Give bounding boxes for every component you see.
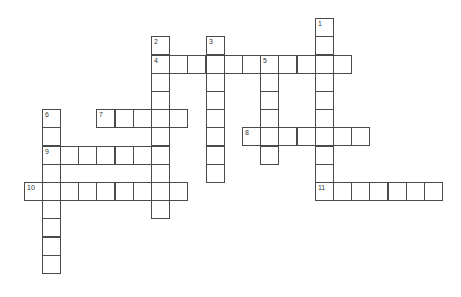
clue-number: 8	[245, 129, 249, 136]
crossword-cell[interactable]: 6	[42, 109, 61, 128]
crossword-cell[interactable]	[297, 127, 316, 146]
clue-number: 3	[209, 38, 213, 45]
clue-number: 7	[99, 111, 103, 118]
crossword-cell[interactable]	[133, 109, 152, 128]
crossword-cell[interactable]	[388, 182, 407, 201]
crossword-cell[interactable]	[242, 55, 261, 74]
crossword-cell[interactable]	[260, 91, 279, 110]
clue-number: 5	[263, 57, 267, 64]
crossword-cell[interactable]: 7	[96, 109, 115, 128]
crossword-cell[interactable]	[60, 146, 79, 165]
crossword-cell[interactable]	[115, 182, 134, 201]
crossword-cell[interactable]	[169, 109, 188, 128]
crossword-cell[interactable]	[133, 146, 152, 165]
crossword-cell[interactable]	[42, 237, 61, 256]
clue-number: 2	[154, 38, 158, 45]
crossword-cell[interactable]	[260, 127, 279, 146]
crossword-cell[interactable]: 10	[24, 182, 43, 201]
crossword-cell[interactable]: 1	[315, 18, 334, 37]
crossword-cell[interactable]	[297, 55, 316, 74]
crossword-cell[interactable]	[315, 55, 334, 74]
crossword-cell[interactable]	[42, 182, 61, 201]
crossword-cell[interactable]	[278, 55, 297, 74]
crossword-cell[interactable]: 4	[151, 55, 170, 74]
crossword-cell[interactable]	[42, 127, 61, 146]
crossword-cell[interactable]	[260, 109, 279, 128]
crossword-cell[interactable]	[278, 127, 297, 146]
crossword-cell[interactable]	[369, 182, 388, 201]
crossword-cell[interactable]	[351, 182, 370, 201]
crossword-cell[interactable]	[206, 164, 225, 183]
crossword-cell[interactable]: 2	[151, 36, 170, 55]
clue-number: 6	[45, 111, 49, 118]
crossword-cell[interactable]	[60, 182, 79, 201]
crossword-cell[interactable]	[151, 127, 170, 146]
crossword-grid: 1112435697810	[0, 0, 461, 297]
crossword-cell[interactable]	[206, 146, 225, 165]
crossword-cell[interactable]	[315, 91, 334, 110]
crossword-cell[interactable]	[115, 109, 134, 128]
crossword-cell[interactable]	[96, 182, 115, 201]
crossword-cell[interactable]	[224, 55, 243, 74]
crossword-cell[interactable]	[351, 127, 370, 146]
crossword-cell[interactable]: 11	[315, 182, 334, 201]
crossword-cell[interactable]	[333, 55, 352, 74]
crossword-cell[interactable]	[151, 164, 170, 183]
crossword-cell[interactable]	[260, 73, 279, 92]
crossword-cell[interactable]: 5	[260, 55, 279, 74]
crossword-cell[interactable]	[315, 146, 334, 165]
crossword-cell[interactable]	[206, 73, 225, 92]
crossword-cell[interactable]	[133, 182, 152, 201]
crossword-cell[interactable]	[333, 127, 352, 146]
crossword-cell[interactable]	[42, 164, 61, 183]
clue-number: 10	[27, 184, 35, 191]
clue-number: 4	[154, 57, 158, 64]
crossword-cell[interactable]	[151, 109, 170, 128]
crossword-cell[interactable]	[42, 218, 61, 237]
crossword-cell[interactable]	[96, 146, 115, 165]
crossword-cell[interactable]	[315, 164, 334, 183]
crossword-cell[interactable]	[424, 182, 443, 201]
crossword-cell[interactable]	[333, 182, 352, 201]
crossword-cell[interactable]	[151, 146, 170, 165]
crossword-cell[interactable]	[42, 200, 61, 219]
crossword-cell[interactable]	[151, 73, 170, 92]
crossword-cell[interactable]	[115, 146, 134, 165]
clue-number: 1	[318, 20, 322, 27]
crossword-cell[interactable]: 9	[42, 146, 61, 165]
crossword-cell[interactable]: 8	[242, 127, 261, 146]
crossword-cell[interactable]	[206, 127, 225, 146]
crossword-cell[interactable]	[406, 182, 425, 201]
crossword-cell[interactable]	[315, 36, 334, 55]
crossword-cell[interactable]	[315, 73, 334, 92]
clue-number: 11	[318, 184, 325, 191]
crossword-cell[interactable]	[206, 109, 225, 128]
crossword-cell[interactable]	[151, 200, 170, 219]
crossword-cell[interactable]	[151, 182, 170, 201]
crossword-cell[interactable]	[169, 182, 188, 201]
crossword-cell[interactable]	[260, 146, 279, 165]
crossword-cell[interactable]	[187, 55, 206, 74]
crossword-cell[interactable]	[78, 146, 97, 165]
crossword-cell[interactable]	[78, 182, 97, 201]
crossword-cell[interactable]	[206, 55, 225, 74]
crossword-cell[interactable]	[315, 127, 334, 146]
crossword-cell[interactable]	[315, 109, 334, 128]
crossword-cell[interactable]	[42, 255, 61, 274]
crossword-cell[interactable]	[151, 91, 170, 110]
clue-number: 9	[45, 148, 49, 155]
crossword-cell[interactable]	[206, 91, 225, 110]
crossword-cell[interactable]: 3	[206, 36, 225, 55]
crossword-cell[interactable]	[169, 55, 188, 74]
